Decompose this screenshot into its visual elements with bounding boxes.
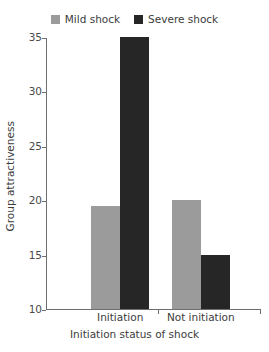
- y-axis-tick-mark: [42, 147, 46, 148]
- plot-area: 101520253035 InitiationNot initiation: [46, 38, 261, 310]
- legend-item-severe-shock: Severe shock: [134, 14, 218, 25]
- y-axis-tick-label: 35: [29, 32, 42, 43]
- legend-label-severe-shock: Severe shock: [148, 14, 218, 25]
- y-axis-tick-label: 20: [29, 195, 42, 206]
- legend-label-mild-shock: Mild shock: [65, 14, 120, 25]
- bar: [172, 200, 201, 309]
- y-axis-tick-label: 25: [29, 141, 42, 152]
- x-axis-line: [46, 309, 261, 310]
- y-axis-tick-mark: [42, 201, 46, 202]
- y-axis-tick-mark: [42, 92, 46, 93]
- y-axis-tick-mark: [42, 256, 46, 257]
- y-axis-title: Group attractiveness: [3, 0, 17, 352]
- x-axis-category-label: Not initiation: [167, 312, 235, 323]
- x-axis-category-label: Initiation: [97, 312, 143, 323]
- legend-swatch-severe-shock: [134, 15, 143, 24]
- y-axis-tick-label: 10: [29, 304, 42, 315]
- legend-item-mild-shock: Mild shock: [51, 14, 120, 25]
- x-axis-tick-mark: [158, 310, 159, 314]
- bar: [201, 255, 230, 309]
- y-axis-tick-label: 15: [29, 250, 42, 261]
- y-axis-tick-mark: [42, 38, 46, 39]
- bar: [91, 206, 120, 309]
- bar: [120, 37, 149, 309]
- chart-legend: Mild shock Severe shock: [0, 14, 269, 25]
- y-axis-tick-label: 30: [29, 86, 42, 97]
- x-axis-tick-mark: [260, 310, 261, 314]
- y-axis-line: [46, 38, 47, 310]
- x-axis-title: Initiation status of shock: [0, 329, 269, 340]
- y-axis-tick-mark: [42, 310, 46, 311]
- legend-swatch-mild-shock: [51, 15, 60, 24]
- y-axis-title-text: Group attractiveness: [5, 121, 16, 231]
- bar-chart: Mild shock Severe shock Group attractive…: [0, 0, 269, 352]
